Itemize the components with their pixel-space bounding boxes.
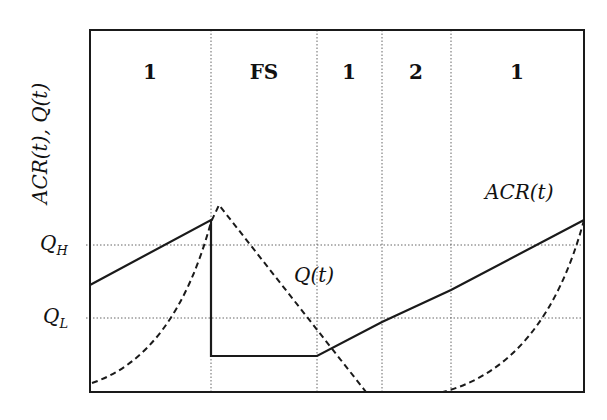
acr-curve [90,220,584,356]
level-lines [86,245,584,318]
plot-frame [90,30,584,392]
queue-curve-label: Q(t) [294,263,334,287]
phase-label-2: 2 [409,60,423,84]
phase-label-fs: FS [250,60,279,84]
diagram-canvas: ACR(t), Q(t) 1 FS 1 2 1 QH QL ACR(t) Q(t… [0,0,607,420]
phase-label-1b: 1 [342,60,356,84]
y-axis-label: ACR(t), Q(t) [28,83,52,204]
queue-curve [92,205,584,392]
acr-curve-label: ACR(t) [485,180,553,204]
level-label-low: QL [43,304,68,331]
phase-dividers [211,30,451,392]
phase-label-1: 1 [143,60,157,84]
phase-label-1c: 1 [510,60,524,84]
level-label-high: QH [40,231,68,258]
